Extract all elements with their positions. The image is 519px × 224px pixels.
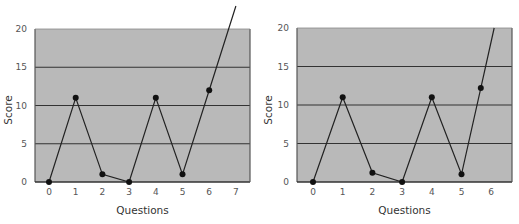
x-axis-label: Questions (116, 204, 168, 216)
y-tick-label: 20 (16, 24, 28, 34)
x-tick-label: 5 (459, 187, 465, 197)
charts-canvas: 0510152001234567QuestionsScore0510152001… (0, 0, 519, 224)
y-axis-label: Score (2, 95, 14, 124)
x-tick-label: 2 (100, 187, 106, 197)
x-tick-label: 3 (399, 187, 405, 197)
left-chart: 0510152001234567QuestionsScore (2, 6, 250, 216)
data-point-marker (46, 179, 52, 185)
data-point-marker (399, 179, 405, 185)
y-tick-label: 10 (16, 101, 28, 111)
y-tick-label: 15 (278, 62, 289, 72)
y-tick-label: 15 (16, 62, 27, 72)
data-point-marker (310, 179, 316, 185)
data-point-marker (340, 94, 346, 100)
data-point-marker (369, 170, 375, 176)
right-chart: 051015200123456QuestionsScore (262, 23, 512, 216)
x-tick-label: 5 (180, 187, 186, 197)
data-point-marker (73, 95, 79, 101)
y-tick-label: 0 (21, 177, 27, 187)
x-tick-label: 7 (233, 187, 239, 197)
x-tick-label: 4 (429, 187, 435, 197)
data-point-marker (153, 95, 159, 101)
data-point-marker (478, 85, 484, 91)
data-point-marker (126, 179, 132, 185)
y-tick-label: 5 (283, 139, 289, 149)
y-tick-label: 10 (278, 100, 290, 110)
x-tick-label: 6 (488, 187, 494, 197)
data-point-marker (206, 87, 212, 93)
y-axis-label: Score (262, 95, 274, 124)
x-tick-label: 2 (370, 187, 376, 197)
y-tick-label: 0 (283, 177, 289, 187)
y-tick-label: 20 (278, 23, 290, 33)
data-point-marker (459, 171, 465, 177)
x-tick-label: 1 (73, 187, 79, 197)
x-axis-label: Questions (378, 204, 430, 216)
x-tick-label: 3 (126, 187, 132, 197)
x-tick-label: 0 (310, 187, 316, 197)
x-tick-label: 0 (46, 187, 52, 197)
data-point-marker (180, 171, 186, 177)
x-tick-label: 4 (153, 187, 159, 197)
y-tick-label: 5 (21, 139, 27, 149)
data-point-marker (429, 94, 435, 100)
x-tick-label: 1 (340, 187, 346, 197)
x-tick-label: 6 (206, 187, 212, 197)
data-point-marker (99, 171, 105, 177)
